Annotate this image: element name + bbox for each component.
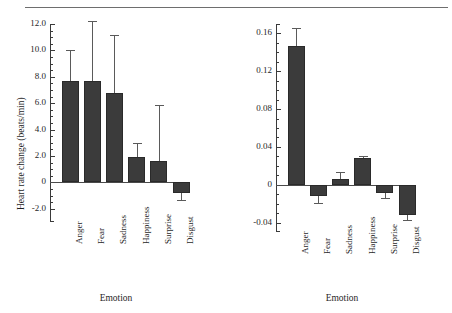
y-axis-major-tick: [276, 147, 281, 148]
bar: [150, 161, 167, 182]
figure-canvas: 12.010.08.06.04.02.00-2.0AngerFearSadnes…: [0, 0, 452, 313]
y-axis-minor-tick: [50, 44, 53, 45]
y-axis-major-tick: [50, 103, 55, 104]
x-axis-category-label: Surprise: [389, 224, 399, 254]
y-axis-minor-tick: [276, 213, 279, 214]
y-axis-tick-label: 0.16: [232, 28, 272, 37]
bar: [399, 185, 416, 215]
y-axis-minor-tick: [276, 52, 279, 53]
error-bar-cap: [314, 203, 323, 204]
y-axis-minor-tick: [50, 83, 53, 84]
bar: [128, 157, 145, 182]
error-bar-cap: [110, 35, 119, 36]
bar: [310, 185, 327, 196]
error-bar-cap: [381, 198, 390, 199]
x-axis-category-label: Happiness: [367, 217, 377, 255]
y-axis-minor-tick: [276, 62, 279, 63]
y-axis-tick-label: 0: [232, 180, 272, 189]
y-axis-minor-tick: [276, 166, 279, 167]
x-axis-category-label: Disgust: [185, 216, 195, 244]
y-axis-minor-tick: [50, 202, 53, 203]
plot-area-left: 12.010.08.06.04.02.00-2.0AngerFearSadnes…: [50, 24, 182, 222]
x-axis-category-label: Sadness: [118, 215, 128, 244]
x-axis-category-label: Surprise: [163, 214, 173, 244]
bar: [354, 158, 371, 184]
bar: [106, 93, 123, 183]
y-axis-minor-tick: [50, 110, 53, 111]
y-axis-tick-label: -0.04: [232, 218, 272, 227]
x-axis-category-label: Disgust: [411, 226, 421, 254]
error-bar-line: [318, 196, 319, 203]
bar: [376, 185, 393, 194]
plot-area-right: 0.160.120.080.040-0.04AngerFearSadnessHa…: [276, 24, 408, 232]
error-bar-line: [159, 105, 160, 162]
error-bar-cap: [133, 143, 142, 144]
y-axis-minor-tick: [276, 156, 279, 157]
error-bar-line: [137, 143, 138, 158]
y-axis-minor-tick: [50, 176, 53, 177]
y-axis-minor-tick: [50, 143, 53, 144]
error-bar-cap: [403, 220, 412, 221]
error-bar-cap: [336, 172, 345, 173]
y-axis-major-tick: [50, 50, 55, 51]
x-axis-category-label: Anger: [74, 222, 84, 245]
y-axis-minor-tick: [276, 194, 279, 195]
bar: [173, 182, 190, 193]
y-axis-minor-tick: [50, 31, 53, 32]
x-axis-category-label: Fear: [96, 228, 106, 244]
y-axis-major-tick: [276, 33, 281, 34]
error-bar-line: [181, 193, 182, 200]
error-bar-line: [407, 215, 408, 220]
x-axis-category-label: Fear: [322, 238, 332, 254]
y-axis-tick-label: 0.12: [232, 66, 272, 75]
y-axis-minor-tick: [276, 43, 279, 44]
y-axis-tick-label: 6.0: [6, 98, 46, 107]
bar: [332, 179, 349, 185]
bar: [288, 46, 305, 185]
y-axis-minor-tick: [50, 70, 53, 71]
y-axis-major-tick: [50, 130, 55, 131]
y-axis-major-tick: [276, 71, 281, 72]
y-axis-minor-tick: [50, 169, 53, 170]
y-axis-minor-tick: [50, 57, 53, 58]
y-axis-tick-label: 0.08: [232, 104, 272, 113]
y-axis-minor-tick: [276, 119, 279, 120]
y-axis-major-tick: [276, 109, 281, 110]
y-axis-minor-tick: [50, 149, 53, 150]
y-axis-minor-tick: [276, 128, 279, 129]
y-axis-minor-tick: [50, 163, 53, 164]
y-axis-tick-label: 0.04: [232, 142, 272, 151]
x-axis-label-right: Emotion: [276, 293, 408, 303]
error-bar-cap: [292, 28, 301, 29]
error-bar-line: [340, 172, 341, 179]
y-axis-minor-tick: [50, 90, 53, 91]
x-axis-category-label: Happiness: [141, 207, 151, 245]
y-axis-tick-label: -2.0: [6, 204, 46, 213]
bar: [84, 81, 101, 183]
y-axis-minor-tick: [276, 100, 279, 101]
axis-end-serif: [276, 24, 280, 25]
y-axis-major-tick: [50, 24, 55, 25]
y-axis-label-left: Heart rate change (beats/min): [16, 97, 26, 210]
y-axis-minor-tick: [276, 90, 279, 91]
y-axis-major-tick: [50, 77, 55, 78]
bar: [62, 81, 79, 183]
y-axis-tick-label: 10.0: [6, 45, 46, 54]
x-axis-category-label: Sadness: [344, 225, 354, 254]
y-axis-minor-tick: [50, 97, 53, 98]
y-axis-tick-label: 0: [6, 177, 46, 186]
y-axis-minor-tick: [50, 37, 53, 38]
error-bar-cap: [88, 21, 97, 22]
y-axis-minor-tick: [50, 189, 53, 190]
error-bar-line: [296, 28, 297, 46]
error-bar-cap: [66, 50, 75, 51]
y-axis-major-tick: [50, 156, 55, 157]
chart-panel-finger-temperature: 0.160.120.080.040-0.04AngerFearSadnessHa…: [226, 0, 452, 313]
error-bar-line: [114, 35, 115, 93]
y-axis-minor-tick: [50, 116, 53, 117]
y-axis-minor-tick: [276, 204, 279, 205]
error-bar-cap: [359, 156, 368, 157]
y-axis-tick-label: 2.0: [6, 151, 46, 160]
x-axis-category-label: Anger: [300, 232, 310, 255]
y-axis-minor-tick: [50, 196, 53, 197]
